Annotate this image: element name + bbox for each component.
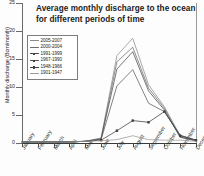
legend-item-label: 1967-1990 bbox=[41, 58, 63, 63]
legend-line-swatch bbox=[30, 40, 39, 41]
legend-item-label: 1991-1999 bbox=[41, 52, 63, 57]
series-marker bbox=[132, 119, 134, 121]
series-marker bbox=[116, 129, 118, 131]
legend-item: 2000-2004 bbox=[30, 44, 76, 51]
legend-item-label: 2005-2007 bbox=[41, 39, 63, 44]
legend-item-label: 1948-1966 bbox=[41, 65, 63, 70]
legend-item: 2005-2007 bbox=[30, 38, 76, 45]
legend-line-swatch bbox=[30, 73, 39, 74]
legend-line-swatch bbox=[30, 53, 39, 54]
series-marker bbox=[163, 110, 165, 112]
legend-line-swatch bbox=[30, 67, 39, 68]
legend-item-label: 1901-1947 bbox=[41, 71, 63, 76]
chart-legend: 2005-20072000-20041991-19991967-19901948… bbox=[27, 35, 78, 80]
series-line bbox=[22, 136, 196, 142]
chart-figure: Average monthly discharge to the ocean f… bbox=[0, 0, 204, 176]
legend-item: 1991-1999 bbox=[30, 51, 76, 58]
series-marker bbox=[179, 135, 181, 137]
series-marker bbox=[147, 121, 149, 123]
legend-line-swatch bbox=[30, 60, 39, 61]
legend-item: 1967-1990 bbox=[30, 57, 76, 64]
legend-line-swatch bbox=[30, 47, 39, 48]
legend-item: 1948-1966 bbox=[30, 64, 76, 71]
series-lines bbox=[0, 0, 204, 176]
legend-item-label: 2000-2004 bbox=[41, 45, 63, 50]
legend-item: 1901-1947 bbox=[30, 70, 76, 77]
